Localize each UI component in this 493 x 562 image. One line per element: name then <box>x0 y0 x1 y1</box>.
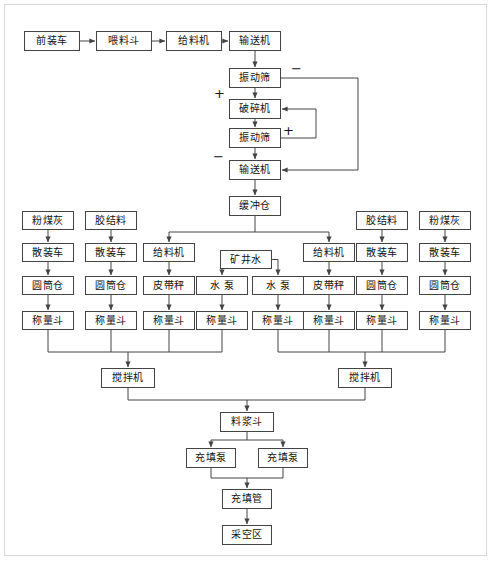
front-loader-box: 前装车 <box>24 31 80 51</box>
mixer-left-box: 搅拌机 <box>101 368 155 388</box>
weigh-hopper-col7-box: 称量斗 <box>356 311 408 330</box>
vibrating-screen-1-box: 振动筛 <box>229 68 281 88</box>
cylinder-silo-col8-box: 圆筒仓 <box>419 276 471 295</box>
binder-right-box: 胶结料 <box>356 211 408 230</box>
belt-scale-col3-box: 皮带秤 <box>143 276 195 295</box>
weigh-hopper-col2-box: 称量斗 <box>85 311 137 330</box>
cylinder-silo-col1-box: 圆筒仓 <box>22 276 74 295</box>
feeder-col6-box: 给料机 <box>303 243 355 262</box>
bulk-truck-col1-box: 散装车 <box>22 243 74 262</box>
feeder-top-box: 给料机 <box>166 31 222 51</box>
feeder-col3-box: 给料机 <box>143 243 195 262</box>
fill-pump-right-box: 充填泵 <box>258 448 308 468</box>
weigh-hopper-col1-box: 称量斗 <box>22 311 74 330</box>
conveyor-top-box: 输送机 <box>229 31 281 51</box>
fly-ash-left-box: 粉煤灰 <box>22 211 74 230</box>
cylinder-silo-col7-box: 圆筒仓 <box>356 276 408 295</box>
cylinder-silo-col2-box: 圆筒仓 <box>85 276 137 295</box>
belt-scale-col6-box: 皮带秤 <box>303 276 355 295</box>
weigh-hopper-col3-box: 称量斗 <box>143 311 195 330</box>
sign-minus-left: − <box>213 150 224 163</box>
bulk-truck-col2-box: 散装车 <box>85 243 137 262</box>
buffer-silo-box: 缓冲仓 <box>229 196 281 216</box>
fly-ash-right-box: 粉煤灰 <box>419 211 471 230</box>
conveyor-2-box: 输送机 <box>229 160 281 180</box>
flowchart-canvas: 前装车喂料斗给料机输送机振动筛破碎机振动筛输送机缓冲仓粉煤灰胶结料胶结料粉煤灰散… <box>0 0 493 562</box>
fill-pump-left-box: 充填泵 <box>186 448 236 468</box>
vibrating-screen-2-box: 振动筛 <box>229 128 281 148</box>
weigh-hopper-col8-box: 称量斗 <box>419 311 471 330</box>
sign-minus-top: − <box>291 62 302 75</box>
goaf-box: 采空区 <box>222 525 272 545</box>
crusher-box: 破碎机 <box>229 99 281 119</box>
weigh-hopper-col6-box: 称量斗 <box>303 311 355 330</box>
weigh-hopper-col5-box: 称量斗 <box>252 311 304 330</box>
sign-plus-left: + <box>214 87 225 100</box>
bulk-truck-col8-box: 散装车 <box>419 243 471 262</box>
mine-water-box: 矿井水 <box>220 250 272 269</box>
water-pump-col4-box: 水 泵 <box>196 276 248 295</box>
water-pump-col5-box: 水 泵 <box>252 276 304 295</box>
sign-plus-mid: + <box>283 124 294 137</box>
mixer-right-box: 搅拌机 <box>338 368 392 388</box>
weigh-hopper-col4-box: 称量斗 <box>196 311 248 330</box>
feed-hopper-box: 喂料斗 <box>96 31 152 51</box>
fill-pipe-box: 充填管 <box>222 489 272 509</box>
bulk-truck-col7-box: 散装车 <box>356 243 408 262</box>
slurry-hopper-box: 料浆斗 <box>220 412 274 432</box>
binder-left-box: 胶结料 <box>85 211 137 230</box>
